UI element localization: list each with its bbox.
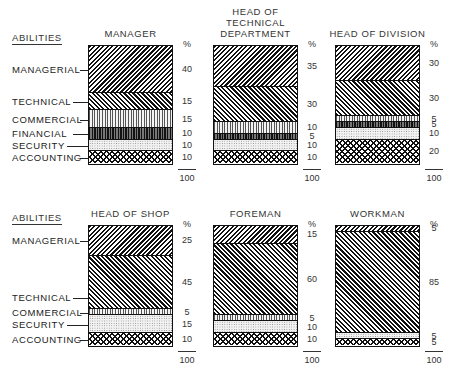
chart-title: FOREMAN bbox=[193, 208, 318, 219]
stacked-bar bbox=[213, 225, 298, 347]
total-value: 100 bbox=[301, 173, 323, 183]
percent-symbol: % bbox=[301, 39, 323, 49]
abilities-header: ABILITIES bbox=[12, 212, 62, 225]
segment-value: 85 bbox=[423, 277, 445, 287]
segment-value: 15 bbox=[176, 96, 198, 106]
row-label-security: SECURITY bbox=[12, 319, 65, 330]
leader-line bbox=[80, 158, 88, 159]
total-value: 100 bbox=[176, 173, 198, 183]
total-rule bbox=[303, 351, 321, 352]
segment-managerial bbox=[214, 46, 297, 87]
segment-value: 10 bbox=[176, 334, 198, 344]
segment-value: 30 bbox=[423, 58, 445, 68]
segment-value: 45 bbox=[176, 277, 198, 287]
segment-security bbox=[89, 140, 172, 152]
chart-title: HEAD OF DIVISION bbox=[315, 28, 440, 39]
segment-technical bbox=[89, 256, 172, 310]
segment-financial bbox=[89, 128, 172, 140]
segment-value: 15 bbox=[176, 319, 198, 329]
stacked-bar bbox=[213, 45, 298, 165]
segment-value: 10 bbox=[176, 152, 198, 162]
leader-line bbox=[67, 146, 88, 147]
chart-title-line: MANAGER bbox=[68, 28, 193, 39]
segment-security bbox=[214, 140, 297, 152]
row-label-security: SECURITY bbox=[12, 140, 65, 151]
total-rule bbox=[425, 169, 443, 170]
segment-technical bbox=[214, 87, 297, 122]
row-label-managerial: MANAGERIAL bbox=[12, 64, 80, 75]
segment-technical bbox=[336, 232, 419, 333]
chart-title-line: WORKMAN bbox=[315, 208, 440, 219]
total-value: 100 bbox=[176, 355, 198, 365]
row-label-managerial: MANAGERIAL bbox=[12, 235, 80, 246]
chart-title-line: HEAD OF SHOP bbox=[68, 208, 193, 219]
segment-technical bbox=[336, 81, 419, 116]
segment-commercial bbox=[214, 122, 297, 134]
segment-value: 10 bbox=[301, 152, 323, 162]
chart-title-line: HEAD OF bbox=[193, 6, 318, 17]
total-value: 100 bbox=[423, 173, 445, 183]
leader-line bbox=[80, 313, 88, 314]
stacked-bar bbox=[88, 225, 173, 347]
segment-value: 30 bbox=[423, 93, 445, 103]
chart-title: HEAD OFTECHNICALDEPARTMENT bbox=[193, 6, 318, 39]
total-rule bbox=[178, 169, 196, 170]
leader-line bbox=[80, 241, 88, 242]
segment-value: 15 bbox=[176, 114, 198, 124]
segment-value: 10 bbox=[301, 322, 323, 332]
row-label-technical: TECHNICAL bbox=[12, 96, 71, 107]
row-label-financial: FINANCIAL bbox=[12, 128, 67, 139]
segment-accounting bbox=[89, 333, 172, 345]
segment-technical bbox=[89, 93, 172, 111]
segment-value: 5 bbox=[423, 223, 445, 233]
percent-symbol: % bbox=[176, 219, 198, 229]
leader-line bbox=[80, 120, 88, 121]
segment-accounting bbox=[336, 339, 419, 345]
chart-title: HEAD OF SHOP bbox=[68, 208, 193, 219]
segment-value: 60 bbox=[301, 274, 323, 284]
chart-title-line: TECHNICAL bbox=[193, 17, 318, 28]
leader-line bbox=[80, 70, 88, 71]
segment-managerial bbox=[336, 46, 419, 81]
percent-symbol: % bbox=[301, 219, 323, 229]
stacked-bar bbox=[335, 225, 420, 347]
segment-value: 5 bbox=[176, 307, 198, 317]
percent-symbol: % bbox=[176, 39, 198, 49]
segment-value: 5 bbox=[423, 337, 445, 347]
segment-value: 10 bbox=[301, 334, 323, 344]
segment-accounting bbox=[89, 151, 172, 163]
segment-managerial bbox=[214, 226, 297, 244]
segment-managerial bbox=[89, 46, 172, 93]
segment-value: 10 bbox=[176, 128, 198, 138]
segment-value: 10 bbox=[176, 140, 198, 150]
segment-commercial bbox=[89, 110, 172, 128]
total-rule bbox=[178, 351, 196, 352]
stacked-bar bbox=[88, 45, 173, 165]
row-label-commercial: COMMERCIAL bbox=[12, 307, 82, 318]
segment-security bbox=[89, 315, 172, 333]
segment-value: 40 bbox=[176, 64, 198, 74]
row-label-technical: TECHNICAL bbox=[12, 292, 71, 303]
row-label-accounting: ACCOUNTING bbox=[12, 334, 82, 345]
leader-line bbox=[73, 298, 88, 299]
row-label-commercial: COMMERCIAL bbox=[12, 114, 82, 125]
total-value: 100 bbox=[301, 355, 323, 365]
segment-managerial bbox=[89, 226, 172, 256]
leader-line bbox=[67, 325, 88, 326]
segment-value: 35 bbox=[301, 61, 323, 71]
row-label-accounting: ACCOUNTING bbox=[12, 152, 82, 163]
abilities-header: ABILITIES bbox=[12, 32, 62, 45]
segment-value: 30 bbox=[301, 99, 323, 109]
segment-value: 10 bbox=[423, 128, 445, 138]
total-rule bbox=[425, 351, 443, 352]
segment-accounting bbox=[214, 333, 297, 345]
segment-value: 25 bbox=[176, 235, 198, 245]
total-rule bbox=[303, 169, 321, 170]
chart-title: WORKMAN bbox=[315, 208, 440, 219]
segment-security bbox=[336, 128, 419, 140]
leader-line bbox=[80, 340, 88, 341]
segment-security bbox=[214, 321, 297, 333]
segment-accounting bbox=[336, 140, 419, 163]
stacked-bar bbox=[335, 45, 420, 165]
total-value: 100 bbox=[423, 355, 445, 365]
